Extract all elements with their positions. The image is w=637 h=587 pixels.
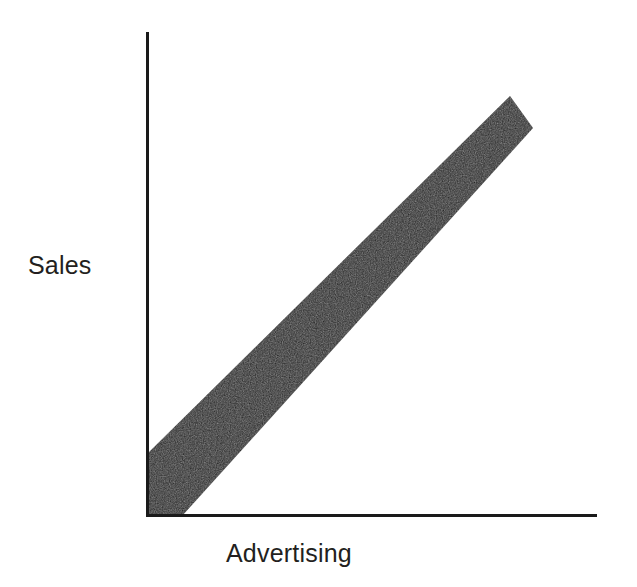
chart-graphics — [0, 0, 637, 587]
x-axis-label: Advertising — [226, 541, 352, 566]
data-band — [146, 96, 533, 516]
chart-figure: Sales Advertising — [0, 0, 637, 587]
plot-area: Sales Advertising — [0, 0, 637, 587]
y-axis-label: Sales — [28, 253, 92, 278]
